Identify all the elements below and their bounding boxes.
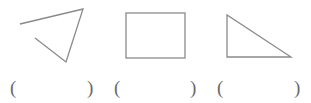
figures-canvas (0, 0, 311, 103)
answer-3-close-paren: ) (294, 76, 300, 100)
answer-3-open-paren: ( (217, 76, 223, 100)
answer-1-open-paren: ( (10, 76, 16, 100)
rectangle-figure (126, 13, 185, 58)
answer-2-open-paren: ( (114, 76, 120, 100)
answer-1-close-paren: ) (87, 76, 93, 100)
right-triangle-figure (227, 15, 291, 57)
open-triangle-figure (20, 9, 83, 62)
answer-2-close-paren: ) (190, 76, 196, 100)
